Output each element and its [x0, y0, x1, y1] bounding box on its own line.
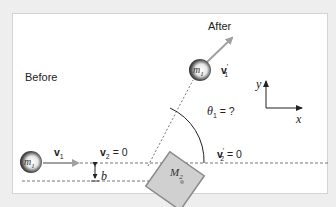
- v1-prime-arrow: [206, 38, 232, 63]
- axis-y-label: y: [256, 78, 261, 90]
- v2-equals-zero-label: v2 = 0: [100, 147, 128, 160]
- v2-prime-equals-zero-label: v′2 = 0: [217, 147, 242, 162]
- m1-label: m1: [24, 157, 35, 170]
- v1-label: v1: [54, 147, 64, 160]
- collision-diagram: [0, 0, 336, 207]
- axis-x-label: x: [296, 113, 301, 125]
- theta-label: θ1 = ?: [207, 105, 235, 119]
- b-label: b: [101, 170, 107, 182]
- after-label: After: [208, 21, 231, 32]
- m1-prime-label: m1: [193, 65, 204, 78]
- M2-label: M2: [170, 167, 183, 181]
- v1-prime-label: v′1: [221, 63, 228, 78]
- before-label: Before: [25, 72, 57, 83]
